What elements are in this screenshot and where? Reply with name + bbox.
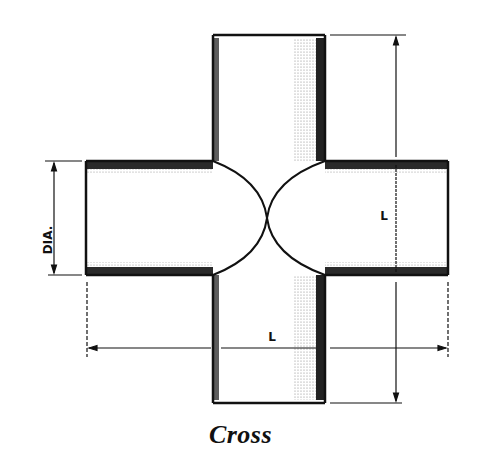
intersection-curves: [213, 161, 325, 275]
diameter-label: DIA.: [41, 226, 55, 255]
vertical-length-label: L: [380, 209, 388, 223]
horizontal-length-label: L: [268, 330, 276, 344]
cross-fitting-diagram: DIA. L L: [0, 0, 481, 460]
diagram-title: Cross: [0, 420, 481, 450]
diameter-dimension: [45, 161, 82, 275]
